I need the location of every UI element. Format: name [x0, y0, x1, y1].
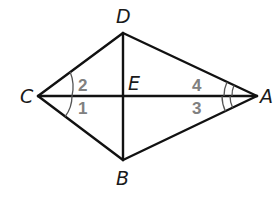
angle-1-arc-icon — [65, 96, 72, 117]
diagram-svg: D A B C E 2 1 4 3 — [0, 0, 274, 197]
vertex-label-b: B — [116, 167, 129, 189]
angle-2-arc-icon — [70, 72, 73, 96]
angle-3-arc-outer-icon — [222, 96, 225, 111]
vertex-label-a: A — [258, 85, 273, 107]
vertex-label-d: D — [116, 5, 131, 27]
angle-label-3: 3 — [192, 99, 201, 118]
angle-label-1: 1 — [78, 99, 87, 118]
vertex-label-c: C — [20, 85, 34, 107]
kite-diagram: D A B C E 2 1 4 3 — [0, 0, 274, 197]
vertex-label-e: E — [128, 72, 140, 94]
angle-4-arc-outer-icon — [224, 82, 227, 96]
angle-label-4: 4 — [192, 76, 202, 95]
segment-ab — [123, 96, 257, 160]
angle-3-arc-inner-icon — [230, 96, 233, 108]
angle-label-2: 2 — [78, 76, 87, 95]
segment-da — [123, 33, 257, 96]
angle-4-arc-inner-icon — [232, 85, 234, 96]
